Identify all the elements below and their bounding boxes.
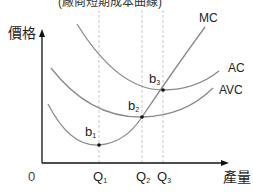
mc-label: MC (199, 12, 218, 24)
x-axis-arrow-icon (221, 160, 229, 166)
x-axis-label: 產量 (223, 170, 251, 184)
origin-label: 0 (28, 170, 35, 183)
cost-curves-diagram (0, 0, 253, 195)
ac-curve (77, 24, 219, 90)
point-b1 (97, 143, 101, 147)
q2-label: Q2 (136, 170, 150, 184)
y-axis-label: 價格 (8, 26, 36, 40)
y-axis-arrow-icon (39, 29, 45, 37)
point-b2 (140, 115, 144, 119)
b2-label: b2 (128, 99, 139, 113)
q1-label: Q1 (93, 170, 107, 184)
ac-label: AC (228, 62, 245, 74)
q3-label: Q3 (157, 170, 171, 184)
point-b3 (161, 88, 165, 92)
mc-curve (48, 27, 205, 145)
b1-label: b1 (85, 125, 96, 139)
avc-label: AVC (219, 84, 243, 96)
b3-label: b3 (149, 72, 160, 86)
